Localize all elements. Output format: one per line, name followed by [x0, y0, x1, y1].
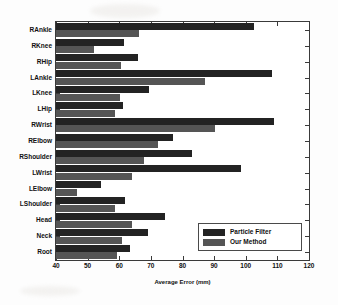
y-tick-label-lankle: LAnkle — [30, 74, 52, 81]
bar-our-method-neck — [56, 237, 122, 244]
y-tick-mark — [305, 236, 309, 237]
y-tick-label-head: Head — [36, 217, 52, 224]
legend-item-particle-filter: Particle Filter — [203, 227, 297, 237]
y-tick-mark — [305, 125, 309, 126]
y-tick-mark — [305, 109, 309, 110]
y-tick-mark — [305, 78, 309, 79]
y-tick-mark — [305, 204, 309, 205]
x-tick-mark — [309, 256, 310, 260]
bar-our-method-rankle — [56, 30, 139, 37]
y-tick-label-rhip: RHip — [37, 58, 52, 65]
y-tick-mark — [305, 30, 309, 31]
y-tick-label-rshoulder: RShoulder — [19, 154, 52, 161]
y-tick-label-rknee: RKnee — [31, 43, 52, 50]
x-tick-mark — [151, 256, 152, 260]
y-tick-label-lknee: LKnee — [32, 90, 52, 97]
bar-our-method-relbow — [56, 141, 158, 148]
x-tick-mark — [214, 256, 215, 260]
y-tick-mark — [305, 93, 309, 94]
bar-our-method-rwrist — [56, 125, 215, 132]
legend-swatch-particle-filter — [203, 229, 225, 236]
y-tick-label-neck: Neck — [36, 233, 52, 240]
x-tick-label: 90 — [211, 263, 218, 270]
x-tick-label: 70 — [147, 263, 154, 270]
bar-our-method-head — [56, 221, 132, 228]
y-tick-mark — [305, 252, 309, 253]
scan-artifact — [20, 286, 80, 296]
x-tick-label: 100 — [240, 263, 251, 270]
bar-particle-filter-neck — [56, 229, 148, 236]
x-tick-label: 40 — [52, 263, 59, 270]
figure-canvas: 405060708090100110120RAnkleRKneeRHipLAnk… — [0, 0, 338, 305]
y-tick-label-rankle: RAnkle — [30, 27, 52, 34]
bar-particle-filter-rankle — [56, 23, 254, 30]
bar-particle-filter-lhip — [56, 102, 123, 109]
bar-our-method-rknee — [56, 46, 94, 53]
bar-particle-filter-root — [56, 245, 130, 252]
x-tick-label: 120 — [304, 263, 315, 270]
x-tick-label: 110 — [272, 263, 283, 270]
x-tick-mark — [277, 256, 278, 260]
y-tick-label-root: Root — [37, 249, 52, 256]
legend-swatch-our-method — [203, 239, 225, 246]
x-tick-mark — [309, 22, 310, 26]
y-tick-label-rwrist: RWrist — [31, 122, 52, 129]
bar-our-method-lhip — [56, 110, 115, 117]
legend-item-our-method: Our Method — [203, 237, 297, 247]
y-tick-label-lshoulder: LShoulder — [20, 201, 52, 208]
x-axis-label: Average Error (mm) — [55, 279, 310, 285]
bar-particle-filter-relbow — [56, 134, 173, 141]
x-tick-label: 50 — [84, 263, 91, 270]
x-tick-mark — [183, 256, 184, 260]
x-tick-mark — [277, 22, 278, 26]
y-tick-label-lelbow: LElbow — [29, 185, 52, 192]
y-tick-mark — [305, 157, 309, 158]
y-tick-mark — [305, 62, 309, 63]
x-tick-label: 60 — [116, 263, 123, 270]
y-tick-label-lwrist: LWrist — [32, 169, 52, 176]
bar-particle-filter-rhip — [56, 54, 138, 61]
bar-particle-filter-lknee — [56, 86, 149, 93]
x-tick-mark — [246, 256, 247, 260]
chart-legend: Particle Filter Our Method — [198, 223, 302, 251]
bar-particle-filter-lankle — [56, 70, 272, 77]
bar-particle-filter-lwrist — [56, 165, 241, 172]
bar-our-method-lwrist — [56, 173, 132, 180]
legend-label-particle-filter: Particle Filter — [230, 229, 271, 236]
y-tick-label-relbow: RElbow — [28, 138, 52, 145]
y-tick-mark — [305, 173, 309, 174]
y-tick-mark — [305, 220, 309, 221]
y-tick-mark — [305, 189, 309, 190]
y-tick-mark — [305, 141, 309, 142]
y-tick-mark — [305, 46, 309, 47]
scan-artifact — [90, 4, 160, 18]
x-tick-label: 80 — [179, 263, 186, 270]
x-tick-mark — [119, 256, 120, 260]
bar-particle-filter-head — [56, 213, 165, 220]
bar-particle-filter-rwrist — [56, 118, 274, 125]
bar-particle-filter-lshoulder — [56, 197, 125, 204]
legend-label-our-method: Our Method — [230, 239, 266, 246]
bar-our-method-root — [56, 252, 117, 259]
bar-particle-filter-lelbow — [56, 181, 101, 188]
bar-our-method-rhip — [56, 62, 121, 69]
bar-our-method-lelbow — [56, 189, 77, 196]
bar-particle-filter-rshoulder — [56, 150, 192, 157]
bar-particle-filter-rknee — [56, 39, 124, 46]
bar-our-method-lshoulder — [56, 205, 115, 212]
bar-our-method-rshoulder — [56, 157, 144, 164]
y-tick-label-lhip: LHip — [38, 106, 52, 113]
bar-our-method-lknee — [56, 94, 120, 101]
bar-our-method-lankle — [56, 78, 205, 85]
